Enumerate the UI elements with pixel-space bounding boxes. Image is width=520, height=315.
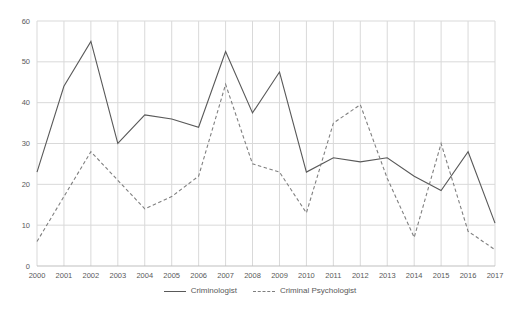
x-tick-label: 2013 — [379, 271, 396, 280]
x-tick-label: 2002 — [83, 271, 100, 280]
chart-legend: Criminologist Criminal Psychologist — [0, 285, 520, 297]
x-tick-label: 2000 — [29, 271, 46, 280]
x-tick-label: 2008 — [244, 271, 261, 280]
line-chart: 0102030405060200020012002200320042005200… — [0, 0, 520, 315]
gridlines — [37, 21, 495, 266]
x-tick-label: 2011 — [325, 271, 341, 280]
x-tick-label: 2001 — [56, 271, 73, 280]
x-axis-labels: 2000200120022003200420052006200720082009… — [29, 271, 504, 280]
y-axis-labels: 0102030405060 — [22, 17, 30, 271]
y-tick-label: 60 — [22, 17, 30, 26]
y-tick-label: 10 — [22, 221, 30, 230]
x-tick-label: 2004 — [136, 271, 153, 280]
y-tick-label: 40 — [22, 98, 30, 107]
x-tick-label: 2007 — [217, 271, 234, 280]
x-tick-label: 2010 — [298, 271, 315, 280]
y-tick-label: 0 — [26, 262, 30, 271]
x-tick-label: 2016 — [460, 271, 477, 280]
x-tick-label: 2006 — [190, 271, 207, 280]
y-tick-label: 20 — [22, 180, 30, 189]
dashed-line-swatch — [253, 291, 275, 292]
x-tick-label: 2005 — [163, 271, 180, 280]
y-tick-label: 50 — [22, 57, 30, 66]
solid-line-swatch — [164, 291, 186, 292]
x-tick-label: 2014 — [406, 271, 423, 280]
legend-item-criminal-psychologist: Criminal Psychologist — [253, 285, 356, 297]
legend-label-criminologist: Criminologist — [191, 285, 237, 297]
x-tick-label: 2003 — [109, 271, 126, 280]
chart-area: 0102030405060200020012002200320042005200… — [0, 0, 520, 315]
x-tick-label: 2015 — [433, 271, 450, 280]
legend-label-criminal-psychologist: Criminal Psychologist — [280, 285, 356, 297]
legend-item-criminologist: Criminologist — [164, 285, 237, 297]
x-tick-label: 2012 — [352, 271, 369, 280]
x-tick-label: 2009 — [271, 271, 288, 280]
line-chart-figure: { "chart_data": { "type": "line", "title… — [0, 0, 520, 315]
y-tick-label: 30 — [22, 139, 30, 148]
x-tick-label: 2017 — [487, 271, 504, 280]
